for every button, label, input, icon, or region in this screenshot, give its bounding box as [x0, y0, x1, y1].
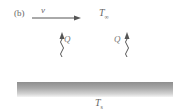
heat-flux-arrow-left-icon [60, 32, 65, 57]
velocity-arrow-icon [32, 16, 81, 21]
diagram-arrows [0, 0, 179, 112]
heat-flux-arrow-right-icon [125, 32, 130, 57]
